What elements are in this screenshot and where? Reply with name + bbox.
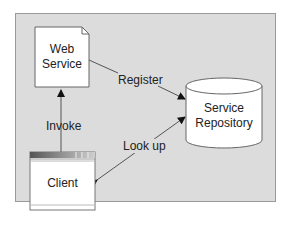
web-service-label: Web Service	[35, 42, 89, 72]
service-repository-label: Service Repository	[186, 101, 262, 131]
web-service-line1: Web	[35, 42, 89, 57]
register-edge	[89, 60, 118, 73]
service-repository-line1: Service	[186, 101, 262, 116]
register-edge-2	[158, 86, 185, 99]
web-service-line2: Service	[35, 57, 89, 72]
client-label: Client	[30, 176, 95, 191]
look-up-label: Look up	[122, 139, 167, 153]
invoke-label: Invoke	[46, 119, 81, 133]
register-label: Register	[118, 73, 163, 87]
service-repository-line2: Repository	[186, 116, 262, 131]
